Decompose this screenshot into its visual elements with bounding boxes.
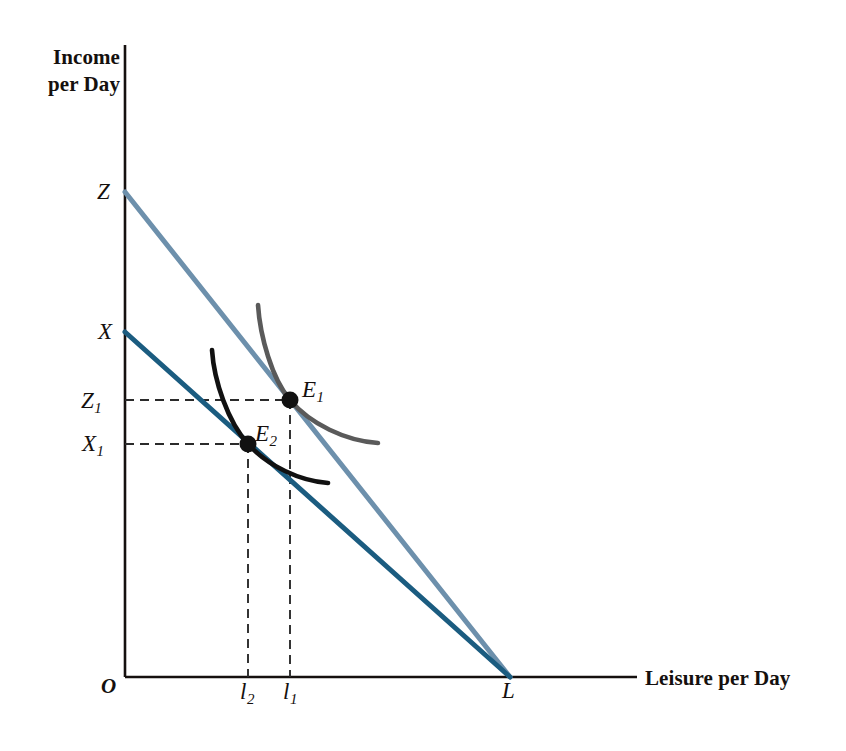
y-axis-title-line1: Income (53, 45, 120, 69)
chart-canvas (0, 0, 846, 751)
label-z1-main: Z (81, 388, 94, 413)
label-e2-subscript: 2 (270, 433, 278, 449)
label-z-intercept: Z (97, 180, 110, 203)
label-l-max-leisure: L (502, 679, 515, 702)
label-e1-main: E (302, 377, 316, 402)
indifference-curve-figure: Income per Day Leisure per Day Z X Z1 X1… (0, 0, 846, 751)
point-e1[interactable] (282, 392, 299, 409)
label-x1-main: X (82, 431, 96, 456)
label-l2-leisure: l2 (240, 680, 254, 703)
label-e2-main: E (255, 421, 269, 446)
x-axis-title: Leisure per Day (645, 668, 790, 689)
budget-lines-group (125, 192, 510, 677)
point-e2[interactable] (240, 436, 257, 453)
label-l2-main: l (240, 679, 246, 704)
label-origin: O (101, 676, 116, 697)
label-e1-subscript: 1 (317, 389, 325, 405)
label-l1-subscript: 1 (290, 691, 298, 707)
label-l1-main: l (283, 679, 289, 704)
y-axis-title-line2: per Day (48, 72, 120, 96)
budget-line-z (125, 192, 510, 677)
label-e2: E2 (255, 422, 277, 445)
axes-group (125, 45, 637, 677)
label-x1-income: X1 (82, 432, 104, 455)
label-l2-subscript: 2 (247, 691, 255, 707)
y-axis-title: Income per Day (28, 44, 120, 98)
label-x-intercept: X (98, 320, 112, 343)
label-z1-subscript: 1 (94, 400, 102, 416)
label-l1-leisure: l1 (283, 680, 297, 703)
label-z1-income: Z1 (81, 389, 101, 412)
label-x1-subscript: 1 (97, 443, 105, 459)
label-e1: E1 (302, 378, 324, 401)
